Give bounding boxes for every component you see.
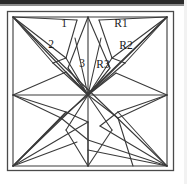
region-label-r2: R2 xyxy=(119,39,133,51)
region-label-3: 3 xyxy=(79,57,85,69)
br-blade-top xyxy=(100,112,118,126)
right-point-upper xyxy=(116,73,167,95)
left-point-lower xyxy=(13,95,61,118)
star-pinwheel-diagram: 1 2 3 R1 R2 R3 xyxy=(0,0,187,184)
bl-inner-tri-b xyxy=(61,118,88,140)
region-label-r1: R1 xyxy=(114,17,128,29)
line-work xyxy=(13,17,167,166)
left-point-upper xyxy=(13,72,66,95)
bottom-point-right xyxy=(88,130,112,166)
bl-fan-c xyxy=(13,142,77,166)
right-point-lower xyxy=(118,95,167,118)
bottom-point-left xyxy=(66,130,88,166)
sash-tr xyxy=(88,17,167,95)
region-label-1: 1 xyxy=(61,17,67,29)
tl-kite-upper-edge xyxy=(13,17,66,58)
bl-upper-chord xyxy=(13,95,66,112)
figure-root: 1 2 3 R1 R2 R3 xyxy=(0,0,187,184)
br-upper-chord xyxy=(118,95,167,112)
sash-tl xyxy=(13,17,88,95)
region-label-2: 2 xyxy=(48,38,54,50)
bottom-point-tip xyxy=(66,95,112,130)
region-label-r3: R3 xyxy=(96,58,110,70)
